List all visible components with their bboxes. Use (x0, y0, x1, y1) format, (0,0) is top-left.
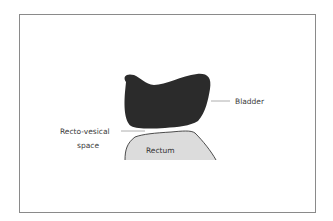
recto-vesical-label-line1: Recto-vesical (60, 127, 110, 136)
anatomy-diagram: Bladder Recto-vesical space Rectum (0, 0, 333, 221)
recto-vesical-label-line2: space (77, 141, 99, 150)
bladder-label: Bladder (235, 97, 265, 106)
bladder-shape (125, 74, 211, 129)
rectum-label: Rectum (146, 146, 175, 155)
